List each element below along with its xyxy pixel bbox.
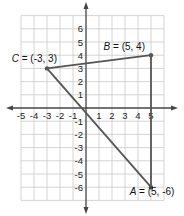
x-tick-label: -5 <box>17 110 25 121</box>
x-tick-label: 2 <box>109 110 114 121</box>
y-tick-label: -2 <box>75 129 83 140</box>
x-axis-arrow-left-icon <box>6 106 13 111</box>
y-tick-label: -6 <box>75 182 83 193</box>
y-tick-label: 2 <box>78 76 83 87</box>
y-tick-label: -4 <box>75 155 83 166</box>
x-tick-label: 3 <box>122 110 127 121</box>
point-c <box>45 66 49 70</box>
x-tick-label: -4 <box>30 110 38 121</box>
label-point-c: C = (-3, 3) <box>12 53 57 64</box>
y-tick-label: 4 <box>78 50 83 61</box>
y-tick-label: 6 <box>78 23 83 34</box>
y-tick-label: 1 <box>78 89 83 100</box>
coordinate-plane: -5-4-3-2-112345654321-1-2-3-4-5-6 A = (5… <box>0 0 184 216</box>
label-point-b: B = (5, 4) <box>104 41 145 52</box>
axes <box>6 2 178 214</box>
x-tick-label: -2 <box>56 110 64 121</box>
y-tick-label: -5 <box>75 169 83 180</box>
x-tick-label: 1 <box>96 110 101 121</box>
y-tick-label: 5 <box>78 37 83 48</box>
x-tick-label: 4 <box>135 110 140 121</box>
label-point-a: A = (5, -6) <box>129 186 175 197</box>
x-axis-arrow-right-icon <box>171 106 178 111</box>
y-axis-arrow-up-icon <box>84 2 89 9</box>
y-tick-label: -1 <box>75 116 83 127</box>
y-axis-arrow-down-icon <box>84 207 89 214</box>
x-tick-label: -3 <box>43 110 51 121</box>
point-b <box>149 53 153 57</box>
y-tick-label: -3 <box>75 142 83 153</box>
